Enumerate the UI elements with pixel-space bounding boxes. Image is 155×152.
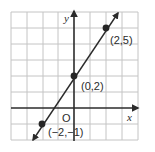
point-b-label: (0,2): [81, 80, 104, 92]
point-2-5: [103, 25, 110, 32]
point-c-label: (2,5): [110, 34, 133, 46]
coordinate-graph: y x O (2,5) (0,2) (−2,−1): [0, 0, 155, 152]
point-0-2: [71, 73, 78, 80]
origin-label: O: [62, 112, 71, 124]
y-axis-label: y: [63, 12, 69, 24]
x-axis-label: x: [126, 111, 132, 123]
point-neg2-neg1: [39, 121, 46, 128]
point-a-label: (−2,−1): [48, 126, 83, 138]
